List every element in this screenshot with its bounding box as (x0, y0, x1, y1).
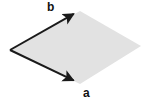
vector-parallelogram-figure: b a (0, 0, 143, 100)
diagram-canvas (0, 0, 143, 100)
vector-a-label: a (83, 87, 90, 99)
vector-b-label: b (47, 1, 54, 13)
vector-parallelogram-area (10, 11, 141, 84)
